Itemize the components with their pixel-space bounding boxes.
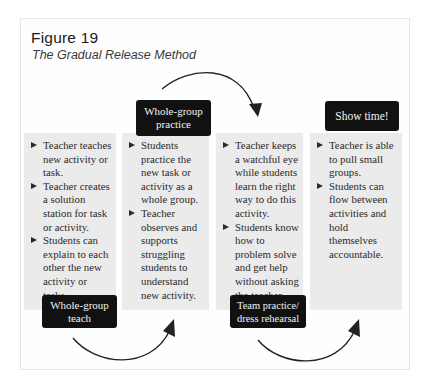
arrow-stage-2-to-3 (162, 73, 262, 117)
arrowhead-icon (249, 103, 262, 117)
arrowhead-icon (163, 319, 175, 337)
arrow-stage-1-to-2 (73, 319, 175, 360)
flow-arrows (0, 0, 432, 390)
arrow-stage-3-to-4 (258, 319, 360, 361)
arrowhead-icon (348, 319, 360, 337)
